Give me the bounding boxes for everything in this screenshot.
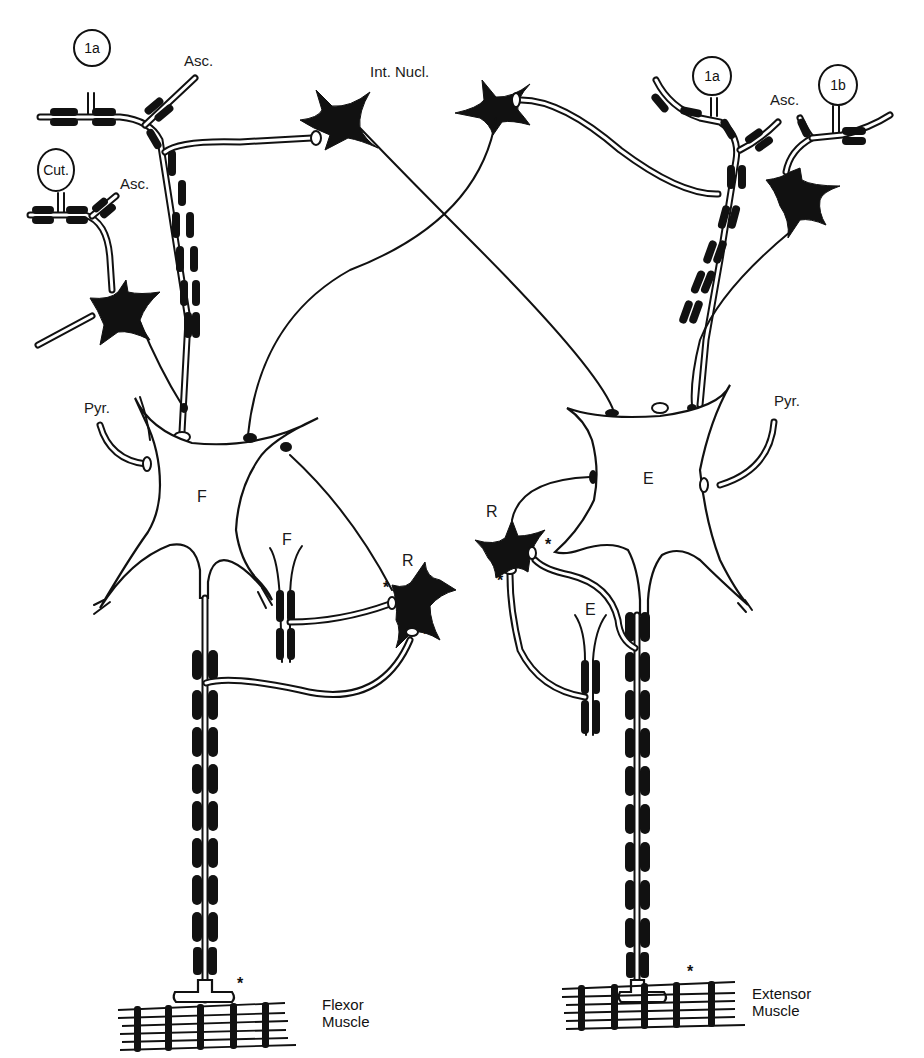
left-collateral-label: F	[282, 532, 292, 548]
extensor-muscle-line2: Muscle	[752, 1002, 811, 1019]
asc-label-left-1: Asc.	[184, 53, 213, 68]
afferent-1a-left-label: 1a	[73, 29, 111, 67]
asc-label-left-2: Asc.	[120, 176, 149, 191]
asterisk-marker: *	[383, 580, 389, 596]
asterisk-marker: *	[237, 976, 243, 992]
asterisk-marker: *	[423, 627, 429, 643]
right-e-collateral	[504, 566, 606, 735]
extensor-muscle-label: Extensor Muscle	[752, 985, 811, 1020]
flexor-motoneuron	[94, 397, 410, 1002]
flexor-muscle	[118, 1002, 296, 1052]
asterisk-marker: *	[545, 537, 551, 553]
afferent-1b-right-label: 1b	[818, 64, 858, 106]
asterisk-marker: *	[497, 573, 503, 589]
flexor-muscle-line1: Flexor	[322, 996, 370, 1013]
pyr-label-left: Pyr.	[84, 400, 110, 415]
extensor-muscle	[562, 981, 745, 1031]
int-nucl-label: Int. Nucl.	[370, 64, 429, 79]
afferent-1a-right-label: 1a	[692, 56, 732, 96]
left-cutaneous-afferent	[30, 193, 117, 290]
right-collateral-label: E	[585, 602, 596, 618]
right-renshaw-label: R	[486, 504, 498, 520]
afferent-cut-label: Cut.	[37, 148, 75, 192]
asterisk-marker: *	[687, 964, 693, 980]
extensor-muscle-line1: Extensor	[752, 985, 811, 1002]
asc-label-right: Asc.	[770, 92, 799, 107]
left-interneuron	[38, 280, 188, 413]
flexor-muscle-label: Flexor Muscle	[322, 996, 370, 1031]
pyr-label-right: Pyr.	[774, 393, 800, 408]
left-1a-afferent	[40, 78, 321, 442]
left-renshaw-label: R	[402, 553, 414, 569]
flexor-muscle-line2: Muscle	[322, 1013, 370, 1030]
right-1a-afferent	[650, 80, 778, 413]
extensor-motoneuron-label: E	[643, 471, 654, 487]
neural-circuit-diagram	[0, 0, 924, 1058]
right-renshaw-cell	[475, 520, 545, 578]
flexor-motoneuron-label: F	[197, 489, 207, 505]
